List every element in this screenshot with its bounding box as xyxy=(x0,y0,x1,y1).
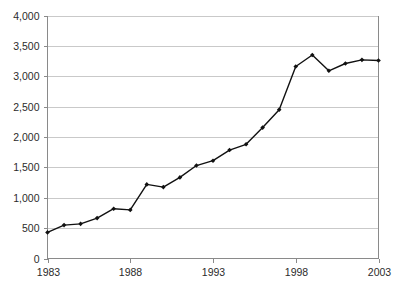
line-chart: 05001,0001,5002,0002,5003,0003,5004,000 … xyxy=(0,0,399,293)
y-tick-label: 2,500 xyxy=(13,101,39,113)
y-tick-label: 3,000 xyxy=(13,70,39,82)
x-tick-label: 2003 xyxy=(368,266,392,278)
y-tick-label: 500 xyxy=(22,222,40,234)
y-tick-label: 1,500 xyxy=(13,161,39,173)
y-tick-label: 3,500 xyxy=(13,40,39,52)
x-tick-label: 1983 xyxy=(37,266,61,278)
y-tick-label: 2,000 xyxy=(13,131,39,143)
x-tick-label: 1993 xyxy=(202,266,226,278)
chart-container: 05001,0001,5002,0002,5003,0003,5004,000 … xyxy=(0,0,399,293)
y-tick-label: 1,000 xyxy=(13,192,39,204)
y-tick-label: 0 xyxy=(34,253,40,265)
x-tick-label: 1988 xyxy=(119,266,143,278)
x-tick-label: 1998 xyxy=(285,266,309,278)
chart-background xyxy=(0,0,399,293)
y-tick-label: 4,000 xyxy=(13,10,39,22)
